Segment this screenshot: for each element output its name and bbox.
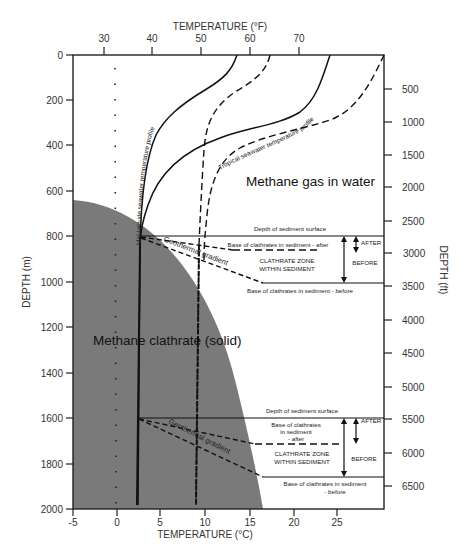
left-tick-label: 800	[46, 231, 63, 242]
right-tick-label: 2500	[402, 216, 425, 227]
bottom-tick-label: 20	[288, 517, 300, 528]
upper-sediment-surface-label: Depth of sediment surface	[254, 225, 327, 232]
upper-after-label: AFTER	[361, 239, 382, 246]
left-tick-label: 1600	[41, 413, 64, 424]
left-tick-label: 1000	[41, 277, 64, 288]
right-tick-label: 6000	[402, 448, 425, 459]
methane-clathrate-region-label: Methane clathrate (solid)	[93, 333, 242, 348]
left-axis	[66, 55, 73, 509]
left-axis-title: DEPTH (m)	[21, 256, 32, 308]
upper-before-label: BEFORE	[352, 259, 377, 266]
bottom-tick-label: 25	[331, 517, 343, 528]
left-tick-label: 1200	[41, 322, 64, 333]
right-tick-label: 1000	[402, 117, 425, 128]
lower-sediment-surface-label: Depth of sediment surface	[266, 407, 339, 414]
tropical-profile-label: Tropical seawater temperature profile	[217, 115, 315, 171]
top-tick-label: 50	[195, 33, 207, 44]
right-tick-label: 2000	[402, 182, 425, 193]
upper-base-before-label: Base of clathrates in sediment - before	[247, 287, 353, 294]
right-tick-label: 3500	[402, 281, 425, 292]
left-tick-label: 400	[46, 140, 63, 151]
right-tick-label: 500	[402, 84, 419, 95]
left-tick-label: 600	[46, 186, 63, 197]
methane-gas-region-label: Methane gas in water	[246, 174, 376, 189]
bottom-axis	[73, 509, 337, 516]
top-tick-label: 40	[146, 33, 158, 44]
lower-base-after-label: in sediment	[280, 428, 312, 435]
upper-zone-label: WITHIN SEDIMENT	[259, 265, 315, 272]
bottom-tick-label: 5	[157, 517, 163, 528]
methane-clathrate-stability-diagram: 30 40 50 60 70 TEMPERATURE (°F) -5 0 5 1…	[0, 0, 465, 557]
lower-base-after-label: Base of clathrates	[271, 421, 321, 428]
tropical-profile	[140, 55, 330, 245]
top-axis	[104, 47, 299, 55]
bottom-axis-title: TEMPERATURE (°C)	[157, 529, 252, 540]
right-tick-label: 5500	[402, 414, 425, 425]
right-tick-label: 1500	[402, 150, 425, 161]
left-tick-label: 200	[46, 95, 63, 106]
right-tick-label: 5000	[402, 382, 425, 393]
top-tick-label: 30	[98, 33, 110, 44]
left-tick-label: 1800	[41, 459, 64, 470]
top-axis-title: TEMPERATURE (°F)	[173, 21, 267, 32]
left-tick-label: 0	[57, 50, 63, 61]
upper-base-after-label: Base of clathrates in sediment - after	[228, 241, 329, 248]
lower-base-before-label: Base of clathrates in sediment	[284, 480, 367, 487]
right-axis	[384, 89, 392, 486]
tropical-profile-label-path: Tropical seawater temperature profile	[217, 115, 315, 171]
upper-zone-label: CLATHRATE ZONE	[260, 257, 315, 264]
lower-base-before-label: - before	[324, 488, 346, 495]
left-tick-label: 1400	[41, 368, 64, 379]
top-tick-label: 70	[293, 33, 305, 44]
top-tick-label: 60	[244, 33, 256, 44]
right-tick-label: 4500	[402, 348, 425, 359]
lower-after-label: AFTER	[361, 417, 382, 424]
bottom-tick-label: 0	[114, 517, 120, 528]
bottom-tick-label: 15	[244, 517, 256, 528]
lower-zone-label: CLATHRATE ZONE	[275, 450, 330, 457]
right-tick-label: 3000	[403, 248, 426, 259]
right-axis-title: DEPTH (ft)	[438, 246, 449, 295]
bottom-tick-label: 10	[199, 517, 211, 528]
left-tick-label: 2000	[41, 504, 64, 515]
lower-base-after-label: - after	[288, 435, 304, 442]
lower-before-label: BEFORE	[351, 455, 376, 462]
lower-zone-label: WITHIN SEDIMENT	[274, 458, 330, 465]
right-tick-label: 6500	[402, 481, 425, 492]
right-tick-label: 4000	[402, 315, 425, 326]
bottom-tick-label: -5	[69, 517, 78, 528]
